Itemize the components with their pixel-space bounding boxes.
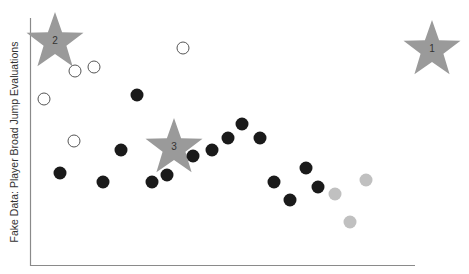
data-point-filled-black [54, 167, 67, 180]
star-annotations: 123 [27, 12, 461, 172]
data-point-filled-black [131, 89, 144, 102]
data-point-filled-black [115, 144, 128, 157]
data-point-filled-black [312, 181, 325, 194]
y-axis-label-text: Fake Data: Player Broad Jump Evaluations [8, 42, 20, 243]
data-point-filled-black [146, 176, 159, 189]
data-point-open-circle [68, 135, 80, 147]
star-label: 3 [171, 141, 177, 152]
star-label: 2 [52, 35, 58, 46]
data-point-filled-black [222, 132, 235, 145]
data-point-open-circle [177, 42, 189, 54]
data-point-filled-black [300, 162, 313, 175]
data-point-open-circle [69, 65, 81, 77]
data-point-light-gray [344, 216, 357, 229]
data-point-filled-black [236, 118, 249, 131]
data-point-filled-black [187, 150, 200, 163]
star-label: 1 [429, 43, 435, 54]
star-marker-2: 2 [27, 12, 84, 66]
data-point-filled-black [97, 176, 110, 189]
data-point-filled-black [254, 132, 267, 145]
data-point-filled-black [161, 169, 174, 182]
data-point-light-gray [329, 188, 342, 201]
data-point-open-circle [38, 93, 50, 105]
data-point-filled-black [284, 194, 297, 207]
scatter-chart: 123 [0, 0, 469, 274]
star-marker-1: 1 [404, 20, 461, 74]
data-point-light-gray [360, 174, 373, 187]
data-point-open-circle [88, 61, 100, 73]
data-point-filled-black [206, 144, 219, 157]
star-marker-3: 3 [146, 118, 203, 172]
data-points [38, 42, 373, 229]
data-point-filled-black [268, 176, 281, 189]
